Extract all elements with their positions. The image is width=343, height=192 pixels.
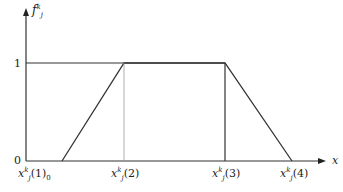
x-tick-2: xkj(2) <box>111 168 139 179</box>
y-tick-1: 1 <box>14 58 21 69</box>
x-tick-3: xkj(3) <box>212 168 240 179</box>
x-axis-arrow-icon <box>318 158 326 164</box>
y-axis-label: fkj <box>32 4 43 16</box>
y-axis-arrow-icon <box>23 8 29 16</box>
membership-plot <box>0 0 343 192</box>
x-tick-4: xkj(4) <box>280 168 308 179</box>
x-axis-label: x <box>332 155 338 166</box>
y-tick-0: 0 <box>14 155 21 166</box>
x-tick-1: xkj(1)0 <box>18 168 51 179</box>
trapezoid-curve <box>62 63 292 161</box>
